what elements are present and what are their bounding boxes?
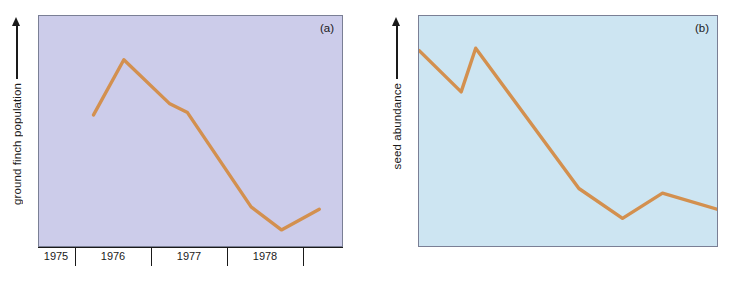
x-axis-line-a	[38, 247, 343, 248]
x-axis-a: 1975 1976 1977 1978	[38, 247, 343, 277]
x-axis-tick-a	[303, 247, 304, 266]
x-axis-tick-a	[151, 247, 152, 266]
x-axis-tick-a	[75, 247, 76, 266]
y-axis-b: seed abundance	[380, 15, 414, 247]
chart-panel-a: ground finch population (a) 1975 1976 19…	[0, 0, 366, 284]
plot-area-a: (a)	[38, 15, 343, 247]
x-axis-tick-a	[227, 247, 228, 266]
plot-area-b: (b)	[418, 15, 718, 247]
x-axis-tick-label-a: 1977	[177, 250, 201, 262]
y-axis-arrow-icon-b	[391, 17, 403, 79]
x-axis-tick-label-a: 1975	[44, 250, 68, 262]
panel-tag-a: (a)	[320, 22, 334, 34]
y-axis-label-b: seed abundance	[391, 83, 403, 169]
line-series-b	[419, 16, 717, 246]
panel-tag-b: (b)	[695, 22, 709, 34]
x-axis-tick-label-a: 1978	[253, 250, 277, 262]
two-panel-line-chart-figure: ground finch population (a) 1975 1976 19…	[0, 0, 732, 284]
y-axis-a: ground finch population	[0, 15, 34, 247]
line-series-a	[39, 16, 342, 246]
y-axis-arrow-icon-a	[11, 17, 23, 79]
chart-panel-b: seed abundance (b) 1975 1976 1977 1978	[366, 0, 732, 284]
y-axis-label-a: ground finch population	[11, 83, 23, 205]
x-axis-tick-label-a: 1976	[101, 250, 125, 262]
